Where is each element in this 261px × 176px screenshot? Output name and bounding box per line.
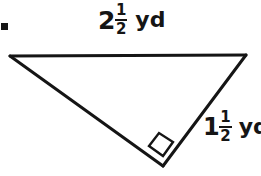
right-label-fraction: 1 2 (219, 110, 231, 145)
geometry-figure: 2 1 2 yd 1 1 2 yd (0, 0, 261, 176)
right-label-whole-number: 1 (203, 115, 219, 139)
right-label-unit: yd (239, 116, 261, 138)
right-side-length-label: 1 1 2 yd (203, 110, 261, 145)
top-side-length-label: 2 1 2 yd (98, 3, 165, 38)
right-label-denominator: 2 (219, 128, 231, 144)
triangle-side-hypotenuse (10, 56, 163, 166)
top-label-whole-number: 2 (98, 8, 115, 33)
top-label-numerator: 1 (115, 3, 127, 19)
top-label-fraction: 1 2 (115, 3, 127, 38)
right-angle-marker-icon (149, 133, 173, 156)
top-label-unit: yd (135, 9, 165, 31)
top-label-denominator: 2 (115, 21, 127, 37)
right-label-numerator: 1 (219, 110, 231, 126)
triangle-side-top (10, 55, 246, 56)
